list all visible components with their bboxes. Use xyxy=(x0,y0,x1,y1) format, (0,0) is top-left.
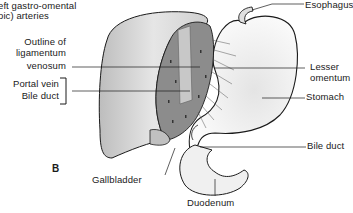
label-lesser-omentum-1: Lesser xyxy=(310,62,339,73)
label-portal-vein: Portal vein xyxy=(13,79,59,90)
label-bile-duct-right: Bile duct xyxy=(307,141,344,152)
duodenum xyxy=(180,145,248,195)
label-venosum: venosum xyxy=(27,61,66,72)
label-lesser-omentum-2: omentum xyxy=(310,73,350,84)
label-esophagus: Esophagus xyxy=(305,0,353,11)
anatomy-illustration xyxy=(0,0,353,213)
label-bile-duct-left: Bile duct xyxy=(22,91,59,102)
label-duodenum: Duodenum xyxy=(187,198,234,209)
label-gallbladder: Gallbladder xyxy=(92,175,142,186)
label-stomach: Stomach xyxy=(306,92,344,103)
label-gastro-omental-arteries-2: oic) arteries xyxy=(0,11,49,22)
panel-letter: B xyxy=(52,163,59,174)
label-ligamentum: ligamentum xyxy=(16,48,66,59)
label-outline-of: Outline of xyxy=(24,37,66,48)
